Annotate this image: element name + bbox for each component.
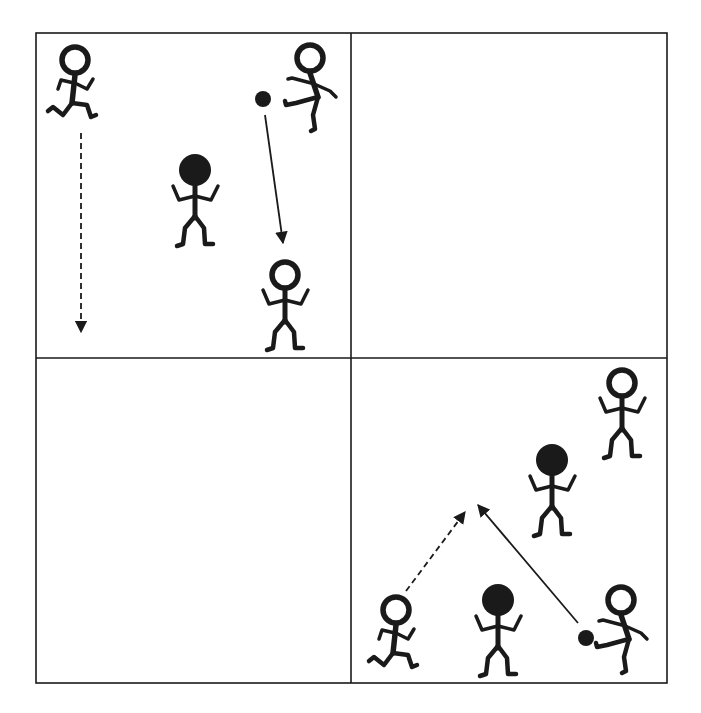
player-white-standing-icon (263, 262, 308, 350)
player-head-open-icon (609, 370, 635, 396)
player-head-open-icon (608, 587, 634, 613)
player-black-standing-icon (530, 444, 575, 536)
dashed-run-arrow (406, 512, 465, 591)
player-head-open-icon (272, 262, 298, 288)
player-white-kicking-icon (596, 587, 647, 673)
ball-icon (255, 91, 271, 107)
player-head-filled-icon (482, 584, 514, 616)
player-white-standing-icon (600, 370, 645, 458)
player-white-kicking-icon (285, 45, 336, 131)
quadrant-bottom-right (369, 370, 647, 676)
solid-pass-arrow (265, 115, 283, 243)
player-white-running-icon (369, 597, 417, 667)
field-grid (36, 33, 667, 683)
player-black-standing-icon (173, 154, 218, 246)
player-black-standing-icon (476, 584, 521, 676)
player-head-open-icon (62, 47, 88, 73)
quadrant-top-left (48, 45, 336, 350)
player-white-running-icon (48, 47, 96, 117)
player-head-open-icon (383, 597, 409, 623)
soccer-drill-diagram (0, 0, 701, 713)
player-head-filled-icon (179, 154, 211, 186)
drill-content (48, 45, 647, 676)
player-head-open-icon (297, 45, 323, 71)
ball-icon (578, 630, 594, 646)
player-head-filled-icon (536, 444, 568, 476)
